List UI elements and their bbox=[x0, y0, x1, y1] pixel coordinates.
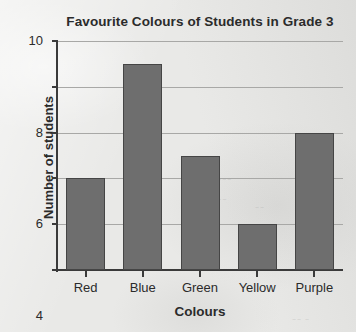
bar-red bbox=[66, 178, 105, 270]
x-axis-tick-mark bbox=[256, 270, 258, 277]
y-axis-tick-label: 6 bbox=[36, 216, 43, 231]
bar-blue bbox=[123, 64, 162, 270]
y-axis-tick-mark: 10 bbox=[52, 40, 58, 42]
bar-green bbox=[181, 156, 220, 271]
x-axis-tick-label-blue: Blue bbox=[130, 280, 156, 295]
x-axis-title: Colours bbox=[57, 304, 343, 319]
bar-purple bbox=[295, 133, 334, 270]
x-axis-tick-label-green: Green bbox=[182, 280, 218, 295]
gridline bbox=[57, 41, 343, 42]
y-axis-tick-label: 4 bbox=[36, 307, 43, 322]
y-axis-line bbox=[56, 41, 58, 272]
y-axis-tick-label: 10 bbox=[29, 33, 43, 48]
x-axis-tick-mark bbox=[313, 270, 315, 277]
x-axis-tick-label-yellow: Yellow bbox=[239, 280, 276, 295]
y-axis-tick-mark: 4 bbox=[52, 177, 58, 179]
y-axis-tick-label: 8 bbox=[36, 124, 43, 139]
x-axis-tick-mark bbox=[142, 270, 144, 277]
y-axis-tick-mark: 2 bbox=[52, 223, 58, 225]
x-axis-tick-label-purple: Purple bbox=[296, 280, 334, 295]
gridline bbox=[57, 87, 343, 88]
y-axis-tick-mark: 8 bbox=[52, 86, 58, 88]
bar-yellow bbox=[238, 224, 277, 270]
x-axis-tick-label-red: Red bbox=[74, 280, 98, 295]
x-axis-tick-mark bbox=[85, 270, 87, 277]
y-axis-tick-mark: 0 bbox=[52, 269, 58, 271]
bar-chart-screenshot: ~ ~~ ~~~ ~- ~~ ~~ ~~ ~ Favourite Colours… bbox=[0, 0, 356, 332]
x-axis-tick-mark bbox=[199, 270, 201, 277]
y-axis-tick-mark: 6 bbox=[52, 132, 58, 134]
chart-title: Favourite Colours of Students in Grade 3 bbox=[57, 14, 343, 29]
plot-area: 0246810 RedBlueGreenYellowPurple bbox=[57, 41, 343, 270]
